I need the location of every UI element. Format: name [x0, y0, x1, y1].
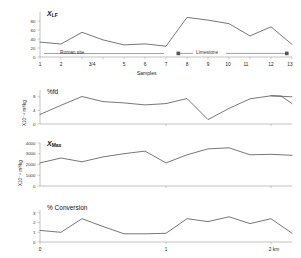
limestone-bracket	[177, 52, 289, 56]
figure-root: XLF Roman site Limestone Samples 0 20 40…	[0, 0, 301, 258]
svg-text:0: 0	[33, 122, 36, 127]
svg-text:40: 40	[31, 37, 36, 42]
panel-pct-conversion: % Conversion 0 1 2 3 0 1	[0, 196, 301, 258]
annotation-roman-site: Roman site	[60, 50, 84, 55]
svg-text:0: 0	[33, 184, 36, 189]
svg-text:13: 13	[287, 62, 293, 67]
panel-3-plot: 0 1000 2000 3000 4000	[0, 134, 301, 196]
svg-text:0: 0	[33, 55, 36, 60]
panel-2-x-ticks	[166, 124, 271, 126]
panel-pct-fd: %fd X10⁻⁸ m³/kg 0 4 8	[0, 78, 301, 134]
svg-text:1000: 1000	[26, 173, 36, 178]
panel-chi-max: XMax X10⁻⁸ m³/kg 0 1000 2000 3000 4000	[0, 134, 301, 196]
panel-chi-lf: XLF Roman site Limestone Samples 0 20 40…	[0, 0, 301, 78]
panel-4-plot: 0 1 2 3 0 1 2 km	[0, 196, 301, 258]
svg-text:3000: 3000	[26, 151, 36, 156]
panel-3-yaxis-label: X10⁻⁸ m³/kg	[18, 160, 23, 186]
svg-text:9: 9	[207, 62, 210, 67]
svg-text:5: 5	[123, 62, 126, 67]
svg-text:7: 7	[165, 62, 168, 67]
svg-text:4: 4	[33, 108, 36, 113]
svg-text:60: 60	[31, 28, 36, 33]
svg-text:2000: 2000	[26, 162, 36, 167]
panel-1-xaxis-label: Samples	[137, 70, 156, 76]
panel-1-dataline	[40, 17, 292, 46]
panel-4-x-ticklabels: 0 1 2 km	[39, 247, 280, 252]
panel-3-y-ticks: 0 1000 2000 3000 4000	[26, 141, 40, 189]
svg-text:3: 3	[33, 211, 36, 216]
svg-text:1: 1	[165, 247, 168, 252]
panel-4-y-ticks: 0 1 2 3	[33, 211, 40, 245]
panel-2-plot: 0 4 8	[0, 78, 301, 134]
svg-text:10: 10	[225, 62, 231, 67]
svg-text:3/4: 3/4	[89, 62, 96, 67]
panel-2-yaxis-label: X10⁻⁸ m³/kg	[22, 100, 27, 126]
svg-text:20: 20	[31, 46, 36, 51]
svg-text:4000: 4000	[26, 141, 36, 146]
panel-2-title: %fd	[47, 88, 58, 95]
panel-1-y-ticks: 0 20 40 60 80	[31, 19, 40, 60]
panel-2-y-ticks: 0 4 8	[33, 94, 40, 126]
svg-text:2: 2	[33, 220, 36, 225]
svg-text:0: 0	[33, 240, 36, 245]
svg-text:0: 0	[39, 247, 42, 252]
svg-text:8: 8	[33, 94, 36, 99]
panel-1-x-ticklabels: 1 2 3/4 5 6 7 8 9 10 11 12 13	[39, 62, 293, 67]
panel-4-x-ticks	[40, 242, 271, 244]
panel-3-dataline	[40, 148, 292, 163]
panel-3-x-ticks	[166, 186, 271, 188]
panel-4-dataline	[40, 217, 292, 234]
panel-1-title: XLF	[47, 10, 58, 17]
panel-2-dataline	[40, 96, 292, 120]
panel-4-title: % Conversion	[47, 204, 87, 211]
svg-text:80: 80	[31, 19, 36, 24]
svg-text:11: 11	[244, 62, 249, 67]
svg-text:6: 6	[144, 62, 147, 67]
svg-text:2: 2	[60, 62, 63, 67]
svg-text:2 km: 2 km	[269, 247, 279, 252]
svg-text:12: 12	[268, 62, 274, 67]
panel-1-plot: 0 20 40 60 80	[0, 0, 301, 78]
svg-text:8: 8	[186, 62, 189, 67]
panel-3-title: XMax	[47, 140, 61, 147]
svg-text:1: 1	[33, 230, 36, 235]
annotation-limestone: Limestone	[196, 50, 218, 55]
svg-text:1: 1	[39, 62, 42, 67]
panel-1-x-ticks	[40, 57, 292, 59]
